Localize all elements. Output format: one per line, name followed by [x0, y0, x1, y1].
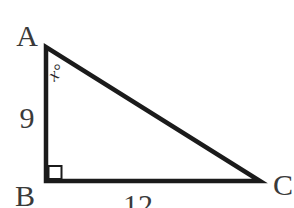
vertex-label-c: C [273, 168, 293, 201]
right-angle-marker [49, 166, 62, 179]
side-label-bc: 12 [123, 188, 153, 208]
geometry-figure: A B C 9 12 x° [0, 0, 294, 208]
triangle-outline [46, 47, 260, 181]
vertex-label-b: B [15, 179, 35, 208]
vertex-label-a: A [16, 19, 38, 52]
side-label-ab: 9 [20, 101, 35, 134]
right-triangle-diagram: A B C 9 12 x° [0, 0, 294, 208]
